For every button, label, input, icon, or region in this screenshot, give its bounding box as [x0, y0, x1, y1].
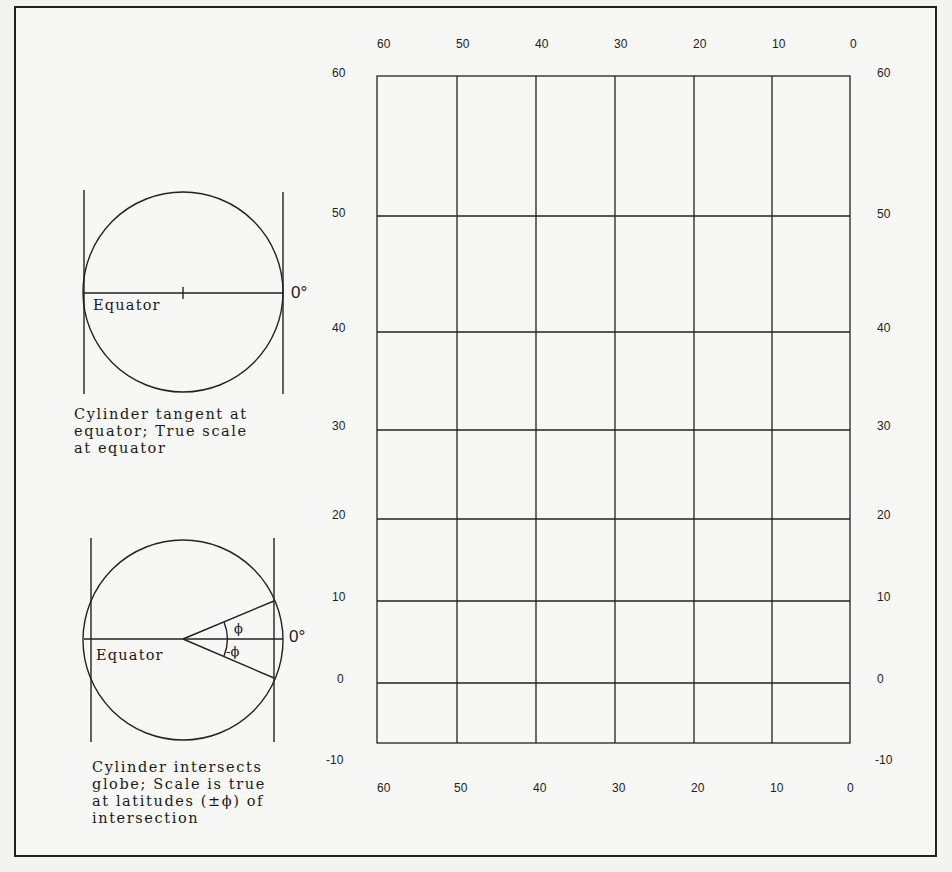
degree-label: 0°: [289, 627, 305, 647]
y-label: -10: [326, 753, 343, 767]
x-label: 10: [770, 781, 783, 795]
x-label: 40: [535, 37, 548, 51]
x-label: 60: [377, 37, 390, 51]
x-label: 20: [691, 781, 704, 795]
phi-label: ϕ: [234, 620, 243, 637]
neg-phi-label: -ϕ: [226, 643, 239, 660]
upper-intersection-ray: [183, 601, 274, 639]
x-label: 30: [612, 781, 625, 795]
x-label: 0: [850, 37, 857, 51]
y-label: 20: [332, 508, 345, 522]
y-label: 10: [332, 590, 345, 604]
y-label: 30: [877, 419, 890, 433]
y-label: 40: [332, 321, 345, 335]
x-label: 50: [454, 781, 467, 795]
globe-circle: [83, 540, 283, 740]
y-label: 10: [877, 590, 890, 604]
y-label: 40: [877, 321, 890, 335]
x-label: 40: [533, 781, 546, 795]
y-label: 50: [877, 207, 890, 221]
x-label: 30: [614, 37, 627, 51]
x-label: 20: [693, 37, 706, 51]
secant-caption: Cylinder intersects globe; Scale is true…: [92, 759, 266, 827]
equator-label: Equator: [96, 647, 164, 664]
x-label: 10: [772, 37, 785, 51]
degree-label: 0°: [291, 283, 307, 303]
y-label: 50: [332, 206, 345, 220]
x-label: 50: [456, 37, 469, 51]
y-label: 20: [877, 508, 890, 522]
tangent-cylinder-figure: [83, 190, 283, 394]
y-label: -10: [875, 753, 892, 767]
tangent-caption: Cylinder tangent at equator; True scale …: [74, 406, 248, 457]
y-label: 60: [877, 66, 890, 80]
y-label: 60: [332, 66, 345, 80]
x-label: 60: [377, 781, 390, 795]
x-label: 0: [847, 781, 854, 795]
y-label: 0: [337, 672, 344, 686]
y-label: 30: [332, 419, 345, 433]
graticule-grid: [377, 76, 850, 743]
equator-label: Equator: [93, 297, 161, 314]
y-label: 0: [877, 672, 884, 686]
grid-border: [377, 76, 850, 743]
secant-cylinder-figure: [83, 538, 283, 742]
